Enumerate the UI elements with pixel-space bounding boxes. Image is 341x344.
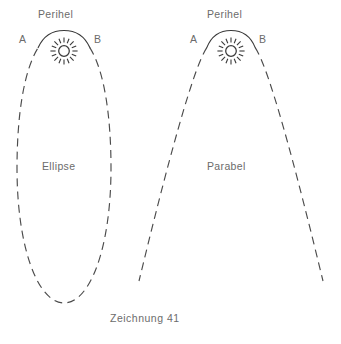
parabola-dashed-curve-left bbox=[139, 48, 207, 281]
parabola-dashed-curve-right bbox=[255, 48, 323, 281]
orbit-diagram-canvas bbox=[0, 0, 341, 344]
parabel-perihel-label: Perihel bbox=[207, 8, 242, 20]
parabel-panel bbox=[139, 31, 323, 282]
figure-caption: Zeichnung 41 bbox=[110, 312, 180, 324]
parabel-point-b-label: B bbox=[259, 33, 266, 45]
ellipse-name-label: Ellipse bbox=[42, 160, 75, 172]
sun-icon bbox=[50, 37, 77, 64]
parabel-point-a-label: A bbox=[190, 33, 197, 45]
parabel-name-label: Parabel bbox=[207, 160, 246, 172]
ellipse-dashed-curve bbox=[17, 48, 111, 303]
ellipse-point-a-label: A bbox=[19, 33, 26, 45]
figure-zeichnung-41: Perihel A B Ellipse Perihel A B Parabel … bbox=[0, 0, 341, 344]
ellipse-perihel-label: Perihel bbox=[38, 8, 73, 20]
ellipse-point-b-label: B bbox=[94, 33, 101, 45]
sun-icon bbox=[217, 37, 244, 64]
